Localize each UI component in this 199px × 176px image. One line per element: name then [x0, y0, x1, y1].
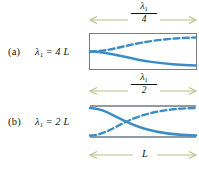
- cropped-caption: [0, 166, 199, 176]
- panel-a-equals: =: [46, 46, 52, 57]
- panel-a-lambda-sub: 1: [40, 51, 44, 59]
- panel-b-value: 2 L: [55, 116, 69, 127]
- lambda-over-2-label: λ1 2: [128, 72, 160, 95]
- panel-b-equals: =: [46, 116, 52, 127]
- panel-a-tag: (a): [8, 46, 20, 57]
- standing-wave-figure: λ1 4 (a) λ1 = 4 L λ1 2 (b) λ1 = 2 L: [0, 0, 199, 176]
- panel-b-lambda-sub: 1: [40, 121, 44, 129]
- panel-b-equation: λ1 = 2 L: [35, 116, 70, 129]
- panel-b-wave-diagram: [88, 103, 199, 141]
- lambda-over-4-label: λ1 4: [128, 1, 160, 24]
- panel-a-value: 4 L: [55, 46, 69, 57]
- length-L-label: L: [133, 148, 157, 159]
- lambda-subscript-a: 1: [145, 5, 148, 12]
- panel-a-wave-diagram: [88, 31, 199, 73]
- lambda-subscript-b: 1: [145, 76, 148, 83]
- panel-b-tag: (b): [8, 116, 21, 127]
- denominator-b: 2: [131, 86, 157, 96]
- panel-a-equation: λ1 = 4 L: [35, 46, 70, 59]
- denominator-a: 4: [131, 15, 157, 25]
